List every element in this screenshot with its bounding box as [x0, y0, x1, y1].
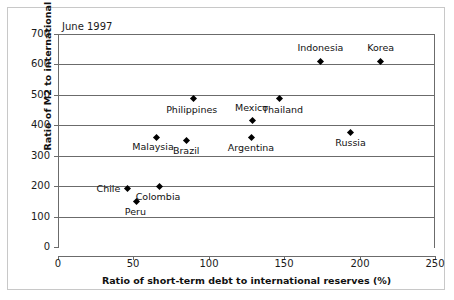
x-axis-title: Ratio of short-term debt to internationa…: [58, 275, 435, 286]
gridline: [58, 34, 435, 35]
plot-area: IndonesiaKoreaPhilippinesThailandMexicoM…: [58, 34, 435, 247]
y-tick-label: 500: [16, 90, 50, 100]
data-point-label: Peru: [0, 207, 324, 217]
data-point[interactable]: [276, 95, 283, 102]
gridline: [58, 95, 435, 96]
x-tick-label: 100: [194, 259, 224, 269]
x-tick-label: 250: [420, 259, 450, 269]
data-point[interactable]: [190, 95, 197, 102]
y-tick-label: 600: [16, 59, 50, 69]
data-point[interactable]: [347, 129, 354, 136]
data-point-label: Korea: [192, 43, 454, 53]
x-tick-label: 0: [43, 259, 73, 269]
y-tick-mark: [54, 247, 58, 248]
data-point[interactable]: [152, 134, 159, 141]
gridline: [58, 217, 435, 218]
data-point-label: Colombia: [0, 192, 347, 202]
y-tick-label: 700: [16, 29, 50, 39]
x-axis-line: [58, 256, 436, 257]
x-tick-label: 50: [118, 259, 148, 269]
data-point[interactable]: [155, 183, 162, 190]
y-tick-label: 200: [16, 181, 50, 191]
x-tick-label: 150: [269, 259, 299, 269]
y-tick-label: 400: [16, 120, 50, 130]
x-tick-label: 200: [345, 259, 375, 269]
chart-title: June 1997: [62, 21, 112, 32]
y-tick-label: 0: [16, 242, 50, 252]
data-point-label: Russia: [162, 138, 454, 148]
gridline: [58, 125, 435, 126]
data-point[interactable]: [249, 117, 256, 124]
data-point-label: Mexico: [63, 103, 440, 113]
gridline: [58, 64, 435, 65]
